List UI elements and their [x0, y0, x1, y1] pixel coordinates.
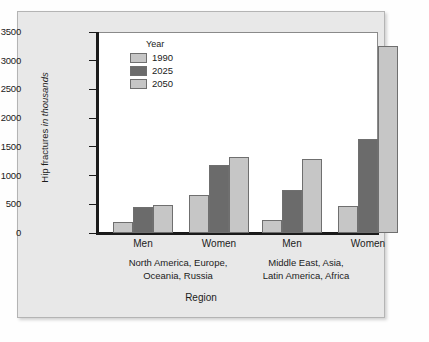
y-axis-tick — [89, 146, 96, 147]
bar-2025-women-3 — [358, 139, 378, 233]
legend-item-2050: 2050 — [130, 78, 204, 89]
x-axis-title: Region — [18, 292, 384, 303]
group-label-1: Middle East, Asia,Latin America, Africa — [226, 256, 386, 282]
bar-1990-men-2 — [262, 220, 282, 233]
y-axis-tick — [89, 60, 96, 61]
bar-2025-women-1 — [209, 165, 229, 233]
legend-label-2025: 2025 — [152, 65, 173, 76]
y-axis-tick — [89, 175, 96, 176]
y-axis-tick-label: 0 — [16, 227, 21, 238]
bar-1990-women-3 — [338, 206, 358, 233]
category-label-1: Women — [180, 238, 258, 249]
legend-label-1990: 1990 — [152, 52, 173, 63]
group-label-line1: Middle East, Asia, — [226, 256, 386, 269]
group-label-line2: Latin America, Africa — [226, 269, 386, 282]
y-axis-tick — [89, 32, 96, 33]
y-axis-tick-label: 1500 — [1, 141, 21, 152]
category-label-3: Women — [329, 238, 407, 249]
legend: Year 199020252050 — [130, 39, 204, 91]
category-label-0: Men — [104, 238, 182, 249]
y-axis-tick-label: 1000 — [1, 170, 21, 181]
legend-swatch-2025 — [130, 66, 147, 76]
y-axis-tick-label: 3500 — [1, 26, 21, 37]
y-axis-tick-label: 2000 — [1, 112, 21, 123]
y-axis-tick-label: 3000 — [1, 55, 21, 66]
legend-rows: 199020252050 — [130, 52, 204, 89]
bar-2050-women-3 — [378, 46, 398, 233]
bar-1990-women-1 — [189, 195, 209, 233]
bar-1990-men-0 — [113, 222, 133, 233]
legend-swatch-1990 — [130, 53, 147, 63]
legend-swatch-2050 — [130, 79, 147, 89]
legend-label-2050: 2050 — [152, 78, 173, 89]
y-axis-tick — [89, 89, 96, 90]
figure-frame: Hip fractures in thousands 0500100015002… — [17, 11, 385, 318]
y-axis-tick-label: 500 — [6, 198, 21, 209]
y-axis-title-italic: in thousands — [39, 72, 50, 126]
category-label-2: Men — [253, 238, 331, 249]
y-axis-tick — [89, 233, 96, 234]
bar-2050-women-1 — [229, 157, 249, 233]
y-axis-tick-label: 2500 — [1, 83, 21, 94]
bar-2025-men-0 — [133, 207, 153, 233]
legend-title: Year — [146, 39, 204, 49]
chart-screenshot: Hip fractures in thousands 0500100015002… — [0, 0, 429, 342]
bar-2025-men-2 — [282, 190, 302, 233]
legend-item-2025: 2025 — [130, 65, 204, 76]
y-axis-title: Hip fractures in thousands — [39, 48, 50, 208]
y-axis-tick — [89, 118, 96, 119]
bar-2050-men-0 — [153, 205, 173, 233]
y-axis-title-plain: Hip fractures — [39, 129, 50, 183]
bar-2050-men-2 — [302, 159, 322, 233]
y-axis-tick — [89, 204, 96, 205]
legend-item-1990: 1990 — [130, 52, 204, 63]
